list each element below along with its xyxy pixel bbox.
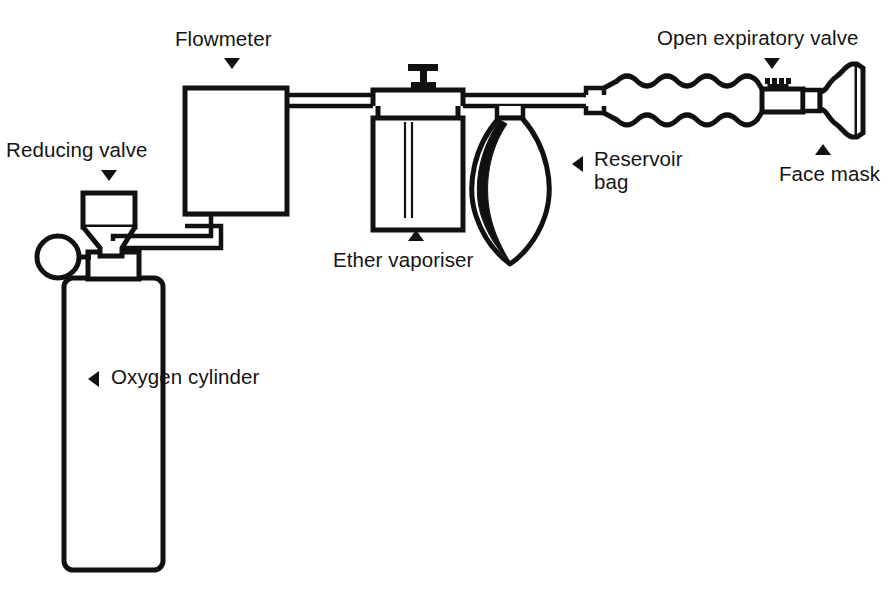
reservoir-bag-pointer-icon bbox=[572, 156, 583, 172]
diagram-canvas bbox=[0, 0, 895, 592]
label-open-expiratory-valve: Open expiratory valve bbox=[657, 27, 859, 50]
reducing-valve-pointer-icon bbox=[101, 170, 117, 181]
label-face-mask: Face mask bbox=[779, 163, 880, 186]
corrugated-tube bbox=[586, 76, 762, 125]
expiratory-valve bbox=[762, 78, 820, 112]
flowmeter bbox=[185, 88, 287, 214]
label-reducing-valve: Reducing valve bbox=[6, 139, 148, 162]
label-oxygen-cylinder: Oxygen cylinder bbox=[111, 366, 259, 389]
oxygen-cylinder-pointer-icon bbox=[88, 371, 99, 387]
flowmeter-pointer-icon bbox=[224, 58, 240, 69]
label-ether-vaporiser: Ether vaporiser bbox=[333, 249, 474, 272]
ether-vaporiser-pointer-icon bbox=[408, 230, 424, 241]
label-reservoir-bag-line2: bag bbox=[594, 171, 629, 194]
reservoir-bag bbox=[472, 118, 549, 264]
expiratory-valve-pointer-icon bbox=[764, 58, 780, 69]
pressure-gauge bbox=[37, 236, 91, 278]
oxygen-cylinder bbox=[64, 278, 163, 570]
face-mask bbox=[820, 64, 863, 137]
flowmeter-to-vaporiser-pipe bbox=[287, 95, 380, 106]
anaesthetic-apparatus-diagram: Flowmeter Open expiratory valve Reducing… bbox=[0, 0, 895, 592]
label-reservoir-bag-line1: Reservoir bbox=[594, 148, 683, 171]
face-mask-pointer-icon bbox=[815, 144, 831, 155]
label-flowmeter: Flowmeter bbox=[175, 28, 272, 51]
vaporiser-knob bbox=[408, 64, 438, 90]
